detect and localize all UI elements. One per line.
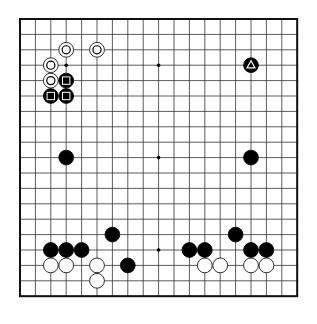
- black-stone[interactable]: [43, 243, 58, 258]
- black-stone[interactable]: [105, 227, 120, 242]
- square-marker-icon: [47, 92, 54, 99]
- black-stone[interactable]: [244, 150, 259, 165]
- black-stone[interactable]: [259, 243, 274, 258]
- star-point: [157, 63, 161, 67]
- white-stone[interactable]: [59, 258, 74, 273]
- star-point: [157, 156, 161, 160]
- black-stone[interactable]: [244, 58, 259, 73]
- star-point: [157, 248, 161, 252]
- white-stone[interactable]: [244, 258, 259, 273]
- black-stone[interactable]: [43, 89, 58, 104]
- black-stone[interactable]: [74, 243, 89, 258]
- go-board[interactable]: [0, 0, 317, 324]
- white-stone[interactable]: [90, 258, 105, 273]
- black-stone[interactable]: [244, 243, 259, 258]
- white-stone[interactable]: [43, 73, 58, 88]
- white-stone[interactable]: [43, 258, 58, 273]
- white-stone[interactable]: [59, 42, 74, 57]
- white-stone[interactable]: [259, 258, 274, 273]
- black-stone[interactable]: [228, 227, 243, 242]
- black-stone[interactable]: [59, 150, 74, 165]
- star-point: [64, 63, 68, 67]
- white-stone[interactable]: [197, 258, 212, 273]
- black-stone[interactable]: [197, 243, 212, 258]
- black-stone[interactable]: [182, 243, 197, 258]
- square-marker-icon: [63, 77, 70, 84]
- black-stone[interactable]: [59, 73, 74, 88]
- white-stone[interactable]: [90, 42, 105, 57]
- white-stone[interactable]: [90, 273, 105, 288]
- square-marker-icon: [63, 92, 70, 99]
- white-stone[interactable]: [43, 58, 58, 73]
- black-stone[interactable]: [59, 89, 74, 104]
- black-stone[interactable]: [120, 258, 135, 273]
- white-stone[interactable]: [213, 258, 228, 273]
- black-stone[interactable]: [59, 243, 74, 258]
